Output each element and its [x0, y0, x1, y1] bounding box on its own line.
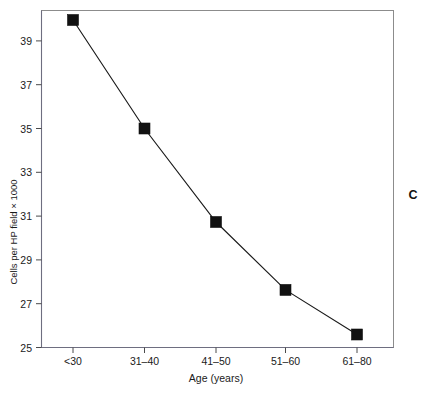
y-tick-label-33: 33 [20, 166, 32, 178]
y-tick-label-39: 39 [20, 35, 32, 47]
x-tick-label-2: 41–50 [201, 355, 230, 367]
data-point-0[interactable] [68, 15, 79, 26]
y-tick-label-35: 35 [20, 123, 32, 135]
series-markers [68, 15, 363, 341]
x-tick-label-1: 31–40 [130, 355, 159, 367]
x-tick-label-4: 61–80 [342, 355, 371, 367]
data-point-2[interactable] [211, 217, 222, 228]
figure-panel-c: 25 27 29 31 33 35 37 39 Cells per HP fie… [0, 0, 430, 394]
y-tick-label-25: 25 [20, 342, 32, 354]
x-tick-label-3: 51–60 [271, 355, 300, 367]
line-chart: 25 27 29 31 33 35 37 39 Cells per HP fie… [0, 0, 430, 394]
panel-letter-label: C [408, 188, 417, 202]
y-tick-label-27: 27 [20, 298, 32, 310]
y-axis-title: Cells per HP field × 1000 [8, 179, 19, 284]
y-axis-ticks [36, 41, 42, 348]
y-tick-label-31: 31 [20, 210, 32, 222]
x-axis-ticks [73, 348, 357, 354]
y-tick-label-37: 37 [20, 79, 32, 91]
plot-frame [42, 11, 394, 348]
data-point-3[interactable] [280, 284, 291, 295]
series-line-cells [73, 20, 357, 335]
data-point-1[interactable] [139, 123, 150, 134]
data-point-4[interactable] [352, 329, 363, 340]
y-tick-label-29: 29 [20, 254, 32, 266]
x-tick-label-0: <30 [64, 355, 82, 367]
x-axis-title: Age (years) [189, 372, 243, 384]
